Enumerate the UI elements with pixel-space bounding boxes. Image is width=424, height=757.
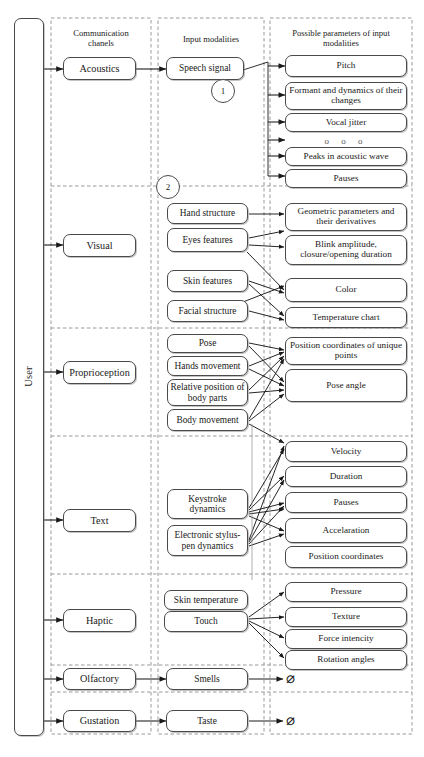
parameter-gustation-empty-set: ⌀ bbox=[286, 713, 295, 728]
parameter-pitch[interactable]: Pitch bbox=[285, 55, 407, 77]
parameter-ellipsis: o o o bbox=[285, 136, 407, 146]
parameter-olfactory-empty-set: ⌀ bbox=[286, 671, 295, 686]
column-header-communication-channels: Communication chanels bbox=[56, 28, 146, 48]
channel-visual[interactable]: Visual bbox=[63, 234, 136, 257]
callout-2: 2 bbox=[156, 175, 180, 199]
column-header-line1: Communication bbox=[56, 28, 146, 38]
parameter-color[interactable]: Color bbox=[285, 278, 407, 302]
channel-haptic[interactable]: Haptic bbox=[63, 609, 136, 632]
column-header-line1: Possible parameters of input bbox=[275, 28, 407, 38]
parameter-velocity[interactable]: Velocity bbox=[285, 441, 407, 462]
column-header-input-modalities: Input modalities bbox=[163, 34, 259, 44]
modality-relative-position-of-body-parts[interactable]: Relative position of body parts bbox=[167, 379, 248, 406]
parameter-geometric-parameters[interactable]: Geometric parameters and their derivativ… bbox=[285, 203, 407, 231]
parameter-position-coordinates-unique-points[interactable]: Position coordinates of unique points bbox=[285, 337, 407, 365]
modality-taste[interactable]: Taste bbox=[166, 710, 248, 732]
modality-touch[interactable]: Touch bbox=[164, 611, 248, 632]
modality-hands-movement[interactable]: Hands movement bbox=[167, 356, 248, 376]
modality-electronic-stylus-pen-dynamics[interactable]: Electronic stylus-pen dynamics bbox=[167, 525, 248, 556]
modality-speech-signal[interactable]: Speech signal bbox=[166, 57, 244, 80]
parameter-pressure[interactable]: Pressure bbox=[285, 582, 407, 602]
diagram-canvas: User Communication chanels Input modalit… bbox=[0, 0, 424, 757]
parameter-temperature-chart[interactable]: Temperature chart bbox=[285, 307, 407, 328]
column-header-possible-parameters: Possible parameters of input modalities bbox=[275, 28, 407, 48]
parameter-vocal-jitter[interactable]: Vocal jitter bbox=[285, 113, 407, 132]
modality-eyes-features[interactable]: Eyes features bbox=[167, 228, 248, 252]
parameter-accelaration[interactable]: Accelaration bbox=[285, 518, 407, 543]
modality-skin-temperature[interactable]: Skin temperature bbox=[164, 590, 248, 610]
channel-proprioception[interactable]: Proprioception bbox=[63, 361, 136, 384]
callout-1: 1 bbox=[211, 79, 235, 103]
parameter-pauses-acoustic[interactable]: Pauses bbox=[285, 169, 407, 188]
parameter-position-coordinates[interactable]: Position coordinates bbox=[285, 546, 407, 568]
parameter-formant-and-dynamics[interactable]: Formant and dynamics of their changes bbox=[285, 82, 407, 110]
parameter-blink-amplitude[interactable]: Blink amplitude, closure/opening duratio… bbox=[285, 235, 407, 265]
parameter-texture[interactable]: Texture bbox=[285, 607, 407, 627]
channel-text[interactable]: Text bbox=[63, 509, 136, 532]
channel-olfactory[interactable]: Olfactory bbox=[63, 668, 136, 690]
parameter-pose-angle[interactable]: Pose angle bbox=[285, 369, 407, 402]
parameter-rotation-angles[interactable]: Rotation angles bbox=[285, 650, 407, 670]
parameter-duration[interactable]: Duration bbox=[285, 466, 407, 487]
column-header-line2: modalities bbox=[275, 38, 407, 48]
modality-skin-features[interactable]: Skin features bbox=[167, 270, 248, 292]
parameter-peaks-in-acoustic-wave[interactable]: Peaks in acoustic wave bbox=[285, 147, 407, 166]
channel-gustation[interactable]: Gustation bbox=[63, 710, 136, 732]
column-header-line2: chanels bbox=[56, 38, 146, 48]
modality-keystroke-dynamics[interactable]: Keystroke dynamics bbox=[167, 489, 248, 519]
parameter-pauses-text[interactable]: Pauses bbox=[285, 492, 407, 513]
modality-smells[interactable]: Smells bbox=[166, 668, 248, 690]
user-spine-box bbox=[14, 18, 44, 736]
modality-facial-structure[interactable]: Facial structure bbox=[167, 300, 248, 322]
parameter-force-intencity[interactable]: Force intencity bbox=[285, 629, 407, 649]
channel-acoustics[interactable]: Acoustics bbox=[63, 57, 136, 80]
modality-hand-structure[interactable]: Hand structure bbox=[167, 203, 248, 224]
modality-pose[interactable]: Pose bbox=[167, 334, 248, 353]
modality-body-movement[interactable]: Body movement bbox=[167, 409, 248, 431]
